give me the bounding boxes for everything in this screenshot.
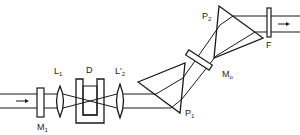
mirror-m1 <box>37 88 44 117</box>
prism-p1 <box>138 63 185 113</box>
label-p2: P2 <box>202 11 212 22</box>
lens-l1 <box>57 86 64 117</box>
label-p1: P1 <box>185 108 195 119</box>
label-m1: M1 <box>37 122 49 133</box>
label-mo: Mo <box>222 69 234 80</box>
label-f: F <box>266 40 272 50</box>
input-arrow-icon <box>16 99 29 103</box>
mirror-mo <box>186 50 213 70</box>
lens-l2 <box>117 84 124 118</box>
label-l1: L1 <box>54 66 63 77</box>
filter-f <box>267 8 271 37</box>
label-l2: L'2 <box>115 66 126 77</box>
output-arrow-icon <box>278 22 290 26</box>
optical-diagram: M1 L1 D L'2 P1 Mo P2 F <box>0 0 300 135</box>
label-d: D <box>86 65 93 75</box>
